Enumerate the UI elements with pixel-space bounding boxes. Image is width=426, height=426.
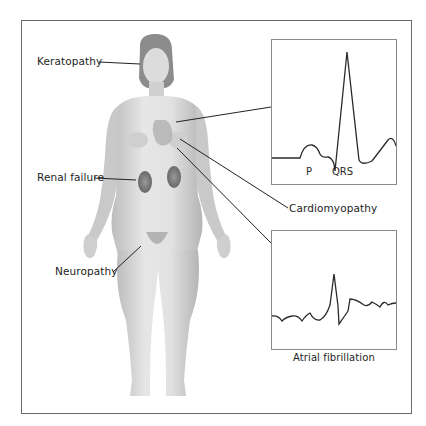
right-kidney — [167, 166, 181, 188]
ecg-normal-panel: P QRS — [271, 39, 397, 185]
leader-keratopathy — [99, 62, 140, 64]
legs — [117, 250, 199, 396]
label-atrial-fibrillation: Atrial fibrillation — [293, 352, 375, 363]
ecg-p-label: P — [306, 166, 312, 177]
ecg-afib-trace — [272, 231, 396, 349]
label-neuropathy: Neuropathy — [55, 265, 118, 277]
label-renal-failure: Renal failure — [37, 171, 104, 183]
ecg-qrs-label: QRS — [332, 166, 353, 177]
left-kidney — [138, 171, 152, 193]
ecg-normal-trace — [272, 40, 396, 184]
ecg-afib-panel — [271, 230, 397, 350]
label-keratopathy: Keratopathy — [37, 55, 102, 67]
label-cardiomyopathy: Cardiomyopathy — [289, 202, 377, 214]
